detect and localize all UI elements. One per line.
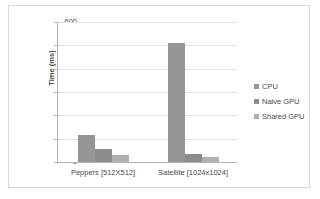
legend-item[interactable]: Shared GPU xyxy=(254,109,316,124)
bar[interactable] xyxy=(95,149,112,162)
legend-label: Naive GPU xyxy=(262,97,300,106)
bar-group xyxy=(78,22,129,162)
plot-area: Peppers [512X512]Satellite [1024x1024] xyxy=(57,22,237,163)
x-axis-category-label: Peppers [512X512] xyxy=(58,168,148,177)
chart-frame: Time (ms) 0100200300400500600 Peppers [5… xyxy=(8,5,310,188)
legend-label: Shared GPU xyxy=(262,112,305,121)
bar[interactable] xyxy=(78,135,95,162)
legend-item[interactable]: Naive GPU xyxy=(254,94,316,109)
legend-swatch-icon xyxy=(254,114,259,119)
bar[interactable] xyxy=(185,154,202,162)
bar-group xyxy=(168,22,219,162)
legend-label: CPU xyxy=(262,82,278,91)
legend-item[interactable]: CPU xyxy=(254,79,316,94)
legend-swatch-icon xyxy=(254,99,259,104)
bar[interactable] xyxy=(112,155,129,162)
legend-swatch-icon xyxy=(254,84,259,89)
chart-legend: CPUNaive GPUShared GPU xyxy=(254,79,316,124)
bar[interactable] xyxy=(168,43,185,162)
bar[interactable] xyxy=(202,157,219,162)
x-axis-category-label: Satellite [1024x1024] xyxy=(148,168,238,177)
